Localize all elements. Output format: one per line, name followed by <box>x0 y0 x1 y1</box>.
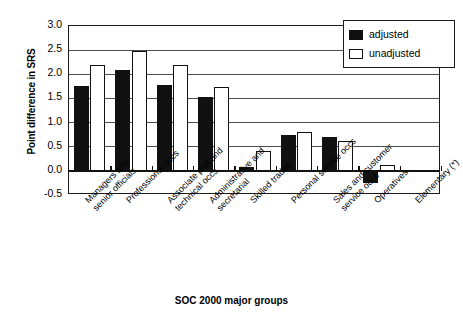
bar-adjusted <box>115 70 130 170</box>
y-axis-tick-label: 1.5 <box>20 91 62 102</box>
legend-label-adjusted: adjusted <box>369 29 409 40</box>
chart-legend: adjusted unadjusted <box>343 20 455 68</box>
bar-adjusted <box>74 86 89 171</box>
y-axis-tick-label: 2.0 <box>20 67 62 78</box>
chart-container: Point difference in SRS 3.02.52.01.51.00… <box>0 0 463 320</box>
y-axis-tick-label: 2.5 <box>20 43 62 54</box>
y-axis-tick-label: 3.0 <box>20 19 62 30</box>
y-axis-tick-label: 0.5 <box>20 140 62 151</box>
legend-label-unadjusted: unadjusted <box>369 48 420 59</box>
y-axis-tick-label: 1.0 <box>20 116 62 127</box>
x-axis-category-labels: Managers andsenior officialsProfessional… <box>0 196 463 292</box>
legend-item-unadjusted: unadjusted <box>349 44 449 63</box>
legend-swatch-unadjusted <box>349 49 363 59</box>
bar-unadjusted <box>132 51 147 171</box>
y-axis-tick-label: 0.0 <box>20 164 62 175</box>
bar-unadjusted <box>297 132 312 171</box>
legend-item-adjusted: adjusted <box>349 25 449 44</box>
x-axis-title: SOC 2000 major groups <box>0 295 463 306</box>
legend-swatch-adjusted <box>349 30 363 40</box>
bar-unadjusted <box>90 65 105 171</box>
